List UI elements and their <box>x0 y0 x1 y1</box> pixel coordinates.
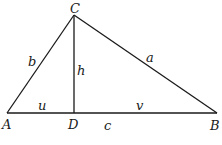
segment-v-label: v <box>136 98 144 113</box>
side-b-label: b <box>28 54 36 69</box>
segment-u-label: u <box>38 98 46 113</box>
altitude-h-label: h <box>77 63 85 78</box>
vertex-a-label: A <box>1 117 11 132</box>
side-c-label: c <box>104 118 112 133</box>
vertex-d-label: D <box>67 117 79 132</box>
triangle-diagram: C A D B b a h u v c <box>0 0 222 145</box>
vertex-c-label: C <box>70 1 80 16</box>
side-a-label: a <box>146 50 154 65</box>
vertex-b-label: B <box>209 118 220 133</box>
